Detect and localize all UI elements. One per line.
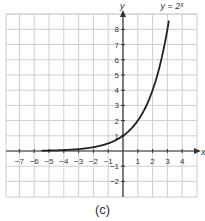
x-tick-label: −4 — [59, 157, 69, 166]
figure-caption: (c) — [0, 202, 205, 217]
x-tick-label: 1 — [136, 157, 141, 166]
x-tick-label: 2 — [150, 157, 155, 166]
x-tick-label: −3 — [74, 157, 84, 166]
y-tick-label: 6 — [115, 56, 120, 65]
x-tick-label: −6 — [30, 157, 40, 166]
x-tick-label: 3 — [165, 157, 170, 166]
x-tick-label: 4 — [180, 157, 185, 166]
y-tick-label: 5 — [115, 71, 120, 80]
curve-label: y = 2ˣ — [160, 1, 185, 11]
y-tick-label: 7 — [115, 41, 120, 50]
y-tick-label: −1 — [110, 162, 120, 171]
exponential-chart: xy−7−6−5−4−3−2−11234−2−112345678y = 2ˣ — [0, 0, 205, 221]
x-tick-label: −7 — [15, 157, 25, 166]
curve-y-equals-2-to-x — [42, 21, 169, 151]
y-tick-label: −2 — [110, 177, 120, 186]
x-tick-label: −5 — [44, 157, 54, 166]
y-tick-label: 8 — [115, 25, 120, 34]
y-tick-label: 3 — [115, 101, 120, 110]
y-tick-label: 4 — [115, 86, 120, 95]
x-axis-label: x — [200, 147, 205, 157]
y-tick-label: 2 — [115, 117, 120, 126]
y-axis-label: y — [119, 1, 125, 11]
x-tick-label: −2 — [89, 157, 99, 166]
